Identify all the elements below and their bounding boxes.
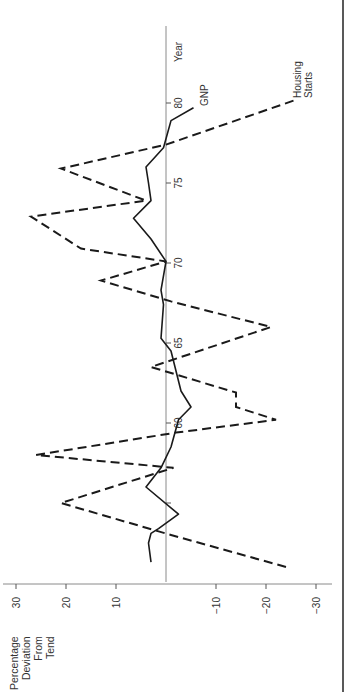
value-tick-label: 20: [61, 597, 72, 609]
value-tick-label: 10: [111, 597, 122, 609]
series-gnp: [134, 108, 194, 562]
series-label-line: Housing: [292, 61, 303, 98]
year-tick-label: 70: [173, 257, 184, 269]
year-axis-label: Year: [173, 41, 184, 62]
value-axis-label-line: Tend: [44, 636, 56, 659]
year-tick-label: 80: [173, 97, 184, 109]
housing-starts-label: HousingStarts: [292, 61, 314, 98]
chart-figure: 6065707580 302010−10−20−30 Year Percenta…: [0, 0, 362, 692]
series-label-line: GNP: [199, 84, 210, 106]
value-axis-label-line: From: [32, 636, 44, 661]
series-label-line: Starts: [303, 72, 314, 98]
value-axis-label: PercentageDeviationFromTend: [8, 636, 56, 690]
value-tick-label: −20: [261, 597, 272, 614]
value-tick-label: 30: [11, 597, 22, 609]
value-tick-label: −30: [311, 597, 322, 614]
value-axis-label-line: Deviation: [20, 636, 32, 680]
value-ticks: 302010−10−20−30: [11, 584, 322, 614]
year-tick-label: 75: [173, 177, 184, 189]
value-tick-label: −10: [211, 597, 222, 614]
gnp-label: GNP: [199, 84, 210, 106]
series-housing-starts: [31, 100, 296, 567]
value-axis-label-line: Percentage: [8, 636, 20, 690]
year-tick-label: 65: [173, 337, 184, 349]
